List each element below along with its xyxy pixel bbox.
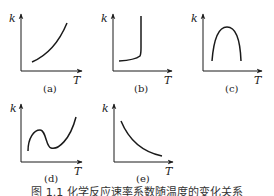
x-axis-label: T <box>164 74 173 87</box>
panel-label: (d) <box>44 173 58 184</box>
panel-a: k T (a) <box>9 12 82 94</box>
rate-coefficient-temperature-figure: k T (a) k T (b) k T (c) k T (d) k T (e) <box>0 0 274 196</box>
panel-label: (e) <box>136 173 150 184</box>
y-axis-label: k <box>10 102 17 115</box>
panel-d: k T (d) <box>10 102 83 184</box>
x-axis-label: T <box>74 165 83 178</box>
x-axis-label: T <box>73 74 82 87</box>
y-axis-label: k <box>9 12 16 25</box>
curve-max-then-min <box>28 117 76 151</box>
panel-label: (b) <box>134 83 148 94</box>
x-axis-label: T <box>254 74 263 87</box>
panel-b: k T (b) <box>101 12 173 94</box>
figure-caption: 图 1.1 化学反应速率系数随温度的变化关系 <box>0 186 274 196</box>
curve-explosion <box>119 16 141 61</box>
y-axis-label: k <box>101 12 108 25</box>
y-axis-label: k <box>191 12 198 25</box>
panel-e: k T (e) <box>102 102 174 184</box>
x-axis-label: T <box>165 165 174 178</box>
curve-increasing-exponential <box>32 23 67 62</box>
curve-decreasing <box>121 121 162 156</box>
panel-label: (c) <box>225 83 239 94</box>
panel-c: k T (c) <box>191 12 263 94</box>
curve-maximum <box>212 27 241 61</box>
panel-label: (a) <box>43 83 57 94</box>
y-axis-label: k <box>102 102 109 115</box>
